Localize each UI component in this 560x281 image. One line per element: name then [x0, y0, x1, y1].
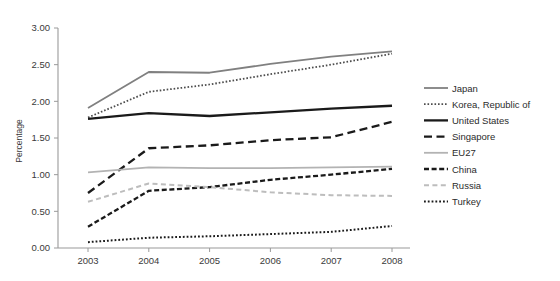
- legend-label: Singapore: [452, 131, 495, 142]
- x-axis-tick-label: 2007: [321, 255, 342, 266]
- legend-label: EU27: [452, 147, 476, 158]
- x-axis-tick-label: 2004: [138, 255, 159, 266]
- x-axis-tick-label: 2003: [77, 255, 98, 266]
- legend-label: United States: [452, 115, 509, 126]
- line-chart-figure: 0.000.501.001.502.002.503.00 20032004200…: [0, 0, 560, 281]
- y-axis-title: Percentage: [14, 119, 24, 163]
- legend-label: Japan: [452, 83, 478, 94]
- y-axis-tick-label: 0.00: [32, 242, 51, 253]
- y-axis-tick-label: 1.00: [32, 169, 51, 180]
- y-axis-tick-label: 1.50: [32, 132, 51, 143]
- legend-label: Korea, Republic of: [452, 99, 531, 110]
- legend-label: Turkey: [452, 196, 481, 207]
- chart-canvas: 0.000.501.001.502.002.503.00 20032004200…: [0, 0, 560, 281]
- chart-legend: JapanKorea, Republic ofUnited StatesSing…: [424, 83, 531, 207]
- series-line: [88, 169, 392, 227]
- y-axis: 0.000.501.001.502.002.503.00: [32, 22, 59, 253]
- x-axis: 200320042005200620072008: [58, 248, 410, 266]
- legend-label: China: [452, 164, 478, 175]
- x-axis-tick-label: 2005: [199, 255, 220, 266]
- y-axis-tick-label: 0.50: [32, 206, 51, 217]
- y-axis-tick-label: 2.00: [32, 96, 51, 107]
- series-line: [88, 226, 392, 242]
- legend-label: Russia: [452, 180, 482, 191]
- x-axis-tick-label: 2008: [381, 255, 402, 266]
- series-line: [88, 167, 392, 173]
- y-axis-tick-label: 3.00: [32, 22, 51, 33]
- data-series-group: [88, 51, 392, 242]
- series-line: [88, 106, 392, 119]
- x-axis-tick-label: 2006: [260, 255, 281, 266]
- y-axis-tick-label: 2.50: [32, 59, 51, 70]
